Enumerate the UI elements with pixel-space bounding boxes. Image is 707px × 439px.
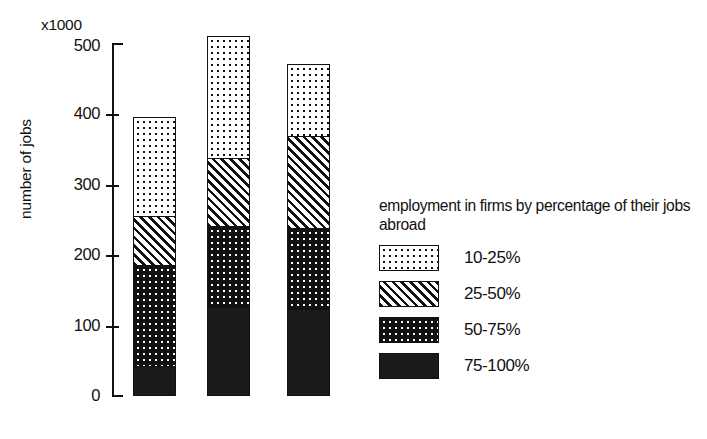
legend-item-75-100[interactable]: 75-100% bbox=[379, 348, 701, 384]
legend-item-50-75[interactable]: 50-75% bbox=[379, 312, 701, 348]
y-tick-label-100: 100 bbox=[38, 316, 100, 335]
legend: employment in firms by percentage of the… bbox=[379, 196, 701, 384]
y-axis-top-cap bbox=[112, 43, 123, 45]
y-tick-label-200: 200 bbox=[38, 245, 100, 264]
y-tick-200 bbox=[106, 255, 119, 257]
bar-2[interactable] bbox=[207, 36, 250, 396]
y-tick-label-500: 500 bbox=[38, 36, 100, 55]
y-axis-multiplier-label: x1000 bbox=[41, 16, 82, 34]
bar-3-segment-50-75[interactable] bbox=[287, 228, 330, 310]
y-tick-300 bbox=[106, 185, 119, 187]
legend-label-25-50: 25-50% bbox=[464, 284, 520, 304]
bar-3[interactable] bbox=[287, 64, 330, 396]
bar-2-segment-25-50[interactable] bbox=[207, 158, 250, 227]
legend-swatch-75-100 bbox=[379, 353, 439, 379]
bar-1-segment-10-25[interactable] bbox=[133, 117, 176, 217]
y-tick-100 bbox=[106, 326, 119, 328]
bar-2-segment-10-25[interactable] bbox=[207, 36, 250, 159]
bar-1-segment-75-100[interactable] bbox=[133, 366, 176, 396]
legend-swatch-25-50 bbox=[379, 281, 439, 307]
bar-1[interactable] bbox=[133, 117, 176, 396]
legend-title: employment in firms by percentage of the… bbox=[379, 196, 691, 234]
legend-item-25-50[interactable]: 25-50% bbox=[379, 276, 701, 312]
bar-1-segment-25-50[interactable] bbox=[133, 216, 176, 266]
bar-1-segment-50-75[interactable] bbox=[133, 265, 176, 367]
legend-swatch-50-75 bbox=[379, 317, 439, 343]
y-axis-line bbox=[112, 43, 114, 397]
y-tick-label-0: 0 bbox=[38, 386, 100, 405]
bar-3-segment-25-50[interactable] bbox=[287, 136, 330, 229]
legend-label-50-75: 50-75% bbox=[464, 320, 520, 340]
y-axis-title: number of jobs bbox=[17, 59, 35, 279]
bar-2-segment-50-75[interactable] bbox=[207, 226, 250, 308]
y-tick-400 bbox=[106, 114, 119, 116]
y-axis-bottom-cap bbox=[112, 395, 123, 397]
legend-item-10-25[interactable]: 10-25% bbox=[379, 240, 701, 276]
bar-3-segment-75-100[interactable] bbox=[287, 309, 330, 396]
y-tick-label-300: 300 bbox=[38, 175, 100, 194]
chart-root: number of jobs x1000 500 400 300 200 100… bbox=[0, 0, 707, 439]
legend-label-75-100: 75-100% bbox=[464, 356, 529, 376]
legend-label-10-25: 10-25% bbox=[464, 248, 520, 268]
bar-2-segment-75-100[interactable] bbox=[207, 307, 250, 396]
y-tick-label-400: 400 bbox=[38, 104, 100, 123]
legend-swatch-10-25 bbox=[379, 245, 439, 271]
bar-3-segment-10-25[interactable] bbox=[287, 64, 330, 137]
